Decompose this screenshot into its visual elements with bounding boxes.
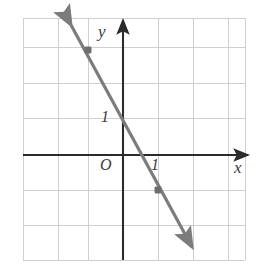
origin-label: O [100, 156, 112, 174]
coordinate-plane-figure: y x 1 1 O [0, 0, 264, 276]
x-axis-label: x [234, 158, 242, 178]
y-axis-tick-label-1: 1 [101, 108, 109, 126]
x-axis-tick-label-1: 1 [151, 156, 159, 174]
graph-canvas [0, 0, 264, 276]
plotted-line [71, 25, 192, 247]
y-axis-label: y [98, 22, 106, 42]
